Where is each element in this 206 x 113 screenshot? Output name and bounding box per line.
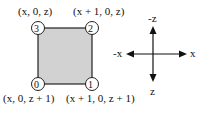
quad-face (38, 28, 92, 84)
vertex-label-0: (x, 0, z + 1) (3, 93, 54, 104)
vertex-index-1: 1 (88, 79, 93, 90)
vertex-index-3: 3 (34, 23, 39, 34)
arrow-up-icon (150, 26, 157, 34)
vertex-label-1: (x + 1, 0, z + 1) (66, 93, 135, 104)
arrow-left-icon (126, 51, 134, 58)
vertex-index-0: 0 (34, 79, 39, 90)
axis-label-neg-x: -x (113, 48, 122, 59)
axis-label-neg-z: -z (148, 13, 157, 24)
arrow-down-icon (150, 74, 157, 82)
vertex-label-2: (x + 1, 0, z) (73, 6, 124, 17)
quad-vertex-diagram: 3 2 0 1 (x, 0, z) (x + 1, 0, z) (x, 0, z… (0, 0, 206, 113)
axis-cross (126, 26, 187, 82)
arrow-right-icon (179, 51, 187, 58)
axis-label-pos-x: x (190, 48, 196, 59)
vertex-label-3: (x, 0, z) (18, 6, 52, 17)
axis-label-pos-z: z (150, 86, 155, 97)
vertex-index-2: 2 (88, 23, 93, 34)
